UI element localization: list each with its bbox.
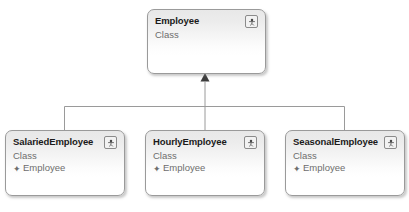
class-icon — [104, 136, 117, 149]
class-box-salariedemployee[interactable]: SalariedEmployee Class ✦ Employee — [5, 130, 125, 196]
class-icon — [244, 136, 257, 149]
class-name-employee: Employee — [155, 15, 199, 26]
generalization-arrowhead — [201, 73, 210, 82]
class-box-header: Employee — [155, 15, 258, 28]
class-box-employee[interactable]: Employee Class — [147, 9, 266, 74]
class-stereotype-seasonalemployee: Class — [293, 150, 397, 162]
class-icon — [245, 15, 258, 28]
class-box-header: HourlyEmployee — [153, 136, 257, 149]
class-stereotype-hourlyemployee: Class — [153, 150, 257, 162]
class-name-seasonalemployee: SeasonalEmployee — [293, 136, 378, 147]
inheritance-arrow-icon: ✦ — [153, 164, 161, 173]
class-name-salariedemployee: SalariedEmployee — [13, 136, 93, 147]
inheritance-arrow-icon: ✦ — [13, 164, 21, 173]
class-stereotype-salariedemployee: Class — [13, 150, 117, 162]
class-stereotype-employee: Class — [155, 29, 258, 41]
class-box-hourlyemployee[interactable]: HourlyEmployee Class ✦ Employee — [145, 130, 265, 196]
class-box-seasonalemployee[interactable]: SeasonalEmployee Class ✦ Employee — [285, 130, 405, 196]
class-diagram-canvas: Employee Class SalariedEmployee — [0, 0, 409, 212]
inheritance-arrow-icon: ✦ — [293, 164, 301, 173]
base-class-ref-salariedemployee: ✦ Employee — [13, 162, 117, 174]
class-box-header: SalariedEmployee — [13, 136, 117, 149]
class-icon — [384, 136, 397, 149]
base-class-name: Employee — [303, 162, 345, 174]
base-class-name: Employee — [163, 162, 205, 174]
base-class-ref-seasonalemployee: ✦ Employee — [293, 162, 397, 174]
base-class-ref-hourlyemployee: ✦ Employee — [153, 162, 257, 174]
class-name-hourlyemployee: HourlyEmployee — [153, 136, 227, 147]
class-box-header: SeasonalEmployee — [293, 136, 397, 149]
base-class-name: Employee — [23, 162, 65, 174]
